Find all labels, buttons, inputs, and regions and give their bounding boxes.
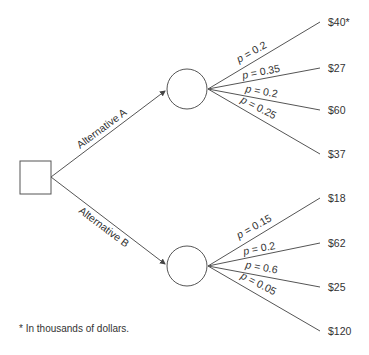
probability-label-a2: p = 0.35 — [240, 62, 281, 81]
probability-label-a1: p = 0.2 — [233, 38, 268, 65]
probability-label-b1: p = 0.15 — [233, 212, 273, 242]
payoff-b1: $18 — [328, 192, 346, 204]
alternative-b-edge — [51, 177, 165, 264]
alternative-a-label: Alternative A — [74, 106, 129, 151]
probability-label-b2: p = 0.2 — [241, 239, 276, 257]
decision-tree: Alternative A Alternative B p = 0.2 p = … — [0, 0, 369, 355]
payoff-b2: $62 — [328, 237, 346, 249]
alternative-b-label: Alternative B — [77, 204, 132, 249]
outcome-edge-b1 — [208, 198, 320, 266]
outcome-edge-a4 — [208, 89, 320, 154]
payoff-a2: $27 — [328, 62, 346, 74]
payoff-b3: $25 — [328, 281, 346, 293]
outcome-edge-b4 — [208, 266, 320, 331]
chance-node-a — [167, 69, 207, 109]
payoff-b4: $120 — [328, 325, 352, 337]
footnote: * In thousands of dollars. — [19, 323, 129, 334]
chance-node-b — [167, 246, 207, 286]
decision-node-square — [20, 161, 51, 194]
payoff-a1: $40* — [328, 16, 350, 28]
payoff-a4: $37 — [328, 148, 346, 160]
payoff-a3: $60 — [328, 104, 346, 116]
alternative-a-edge — [51, 91, 165, 177]
